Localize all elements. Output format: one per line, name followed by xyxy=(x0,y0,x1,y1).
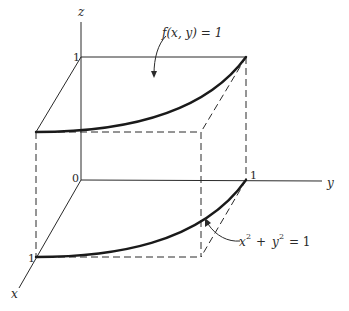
curves xyxy=(36,57,246,257)
base-curve-equation: x 2 + y 2 = 1 xyxy=(239,232,311,249)
z-one-tick: 1 xyxy=(73,51,80,64)
top-right-edge xyxy=(201,57,246,132)
eq-y: y xyxy=(271,235,279,249)
origin-label: 0 xyxy=(72,172,79,185)
top-label-pointer xyxy=(154,36,166,74)
eq-plus: + xyxy=(256,235,266,249)
top-left-edge xyxy=(36,57,81,132)
eq-y-exponent: 2 xyxy=(279,232,284,241)
x-one-tick: 1 xyxy=(28,252,35,265)
base-label-pointer xyxy=(208,224,240,241)
arrowhead-base-icon xyxy=(205,218,211,227)
z-axis-label: z xyxy=(77,5,85,19)
top-surface-curve xyxy=(36,57,246,132)
cube-diagram: z y x 0 1 1 1 f(x, y) = 1 x 2 + y 2 = 1 xyxy=(0,0,349,311)
y-one-tick: 1 xyxy=(250,169,257,182)
x-axis-label: x xyxy=(11,287,18,301)
eq-x: x xyxy=(239,235,246,249)
arrowhead-top-icon xyxy=(151,71,157,78)
top-surface-label: f(x, y) = 1 xyxy=(161,26,222,40)
x-axis xyxy=(19,180,81,288)
eq-rhs: = 1 xyxy=(289,235,311,249)
arrowheads xyxy=(151,71,211,227)
pointer-arrows xyxy=(154,36,240,241)
y-axis-label: y xyxy=(326,176,334,190)
base-circle-curve xyxy=(36,180,246,257)
eq-x-exponent: 2 xyxy=(246,232,251,241)
